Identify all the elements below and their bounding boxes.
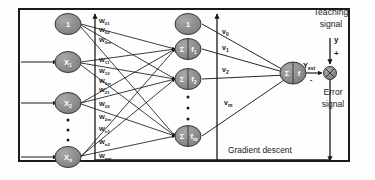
error-signal-label-line1: Error xyxy=(302,88,364,97)
weight-label-wn1: Wn1 xyxy=(99,126,110,135)
output-signal-label: Yest xyxy=(303,62,315,71)
weight-label-v2: v2 xyxy=(222,66,229,75)
teaching-signal-label-line2: signal xyxy=(296,20,366,29)
weight-label-vm: vm xyxy=(224,99,232,108)
minus-sign-label: - xyxy=(310,76,312,83)
input-node-xn: Xn xyxy=(55,147,81,168)
output-node-sigma: Σ xyxy=(285,69,290,78)
weight-label-w12: W12 xyxy=(99,68,110,77)
neural-network-diagram: 1 X1 X2 Xn 1 Σ f1 Σ xyxy=(0,0,375,180)
weight-sub-v0: 0 xyxy=(226,31,229,37)
weight-sub-w02: 02 xyxy=(105,30,110,35)
hidden-node-f2-sigma: Σ xyxy=(180,75,185,84)
hidden-node-f1: Σ f1 xyxy=(175,39,201,60)
weight-sub-w01: 01 xyxy=(105,21,110,26)
weight-label-wn2: Wn2 xyxy=(99,139,110,148)
weight-sub-w12: 12 xyxy=(105,71,110,76)
weight-sub-vm: m xyxy=(228,102,232,108)
weight-label-w02: W02 xyxy=(99,27,110,36)
weight-label-w11: W11 xyxy=(99,57,110,66)
summing-junction xyxy=(324,67,337,80)
weight-sub-w2m: 2m xyxy=(105,117,111,122)
input-layer-ellipsis xyxy=(67,119,70,142)
hidden-node-f1-sigma: Σ xyxy=(180,45,185,54)
weight-label-w2m: W2m xyxy=(99,114,111,123)
weight-label-v1: v1 xyxy=(222,44,229,53)
hidden-node-bias: 1 xyxy=(175,14,201,35)
input-node-x2: X2 xyxy=(55,93,81,114)
gradient-descent-label: Gradient descent xyxy=(228,146,292,154)
weight-sub-w0m: 0m xyxy=(105,40,111,45)
weight-label-w21: W21 xyxy=(99,87,110,96)
weight-sub-w1m: 1m xyxy=(105,81,111,86)
weight-sub-w11: 11 xyxy=(105,60,110,65)
weight-sub-w21: 21 xyxy=(105,90,110,95)
input-node-bias: 1 xyxy=(55,14,81,35)
hidden-node-fm-sigma: Σ xyxy=(180,132,185,141)
output-signal-sub: est xyxy=(308,65,315,71)
teaching-signal-label-line1: Teaching xyxy=(296,8,366,17)
weight-sub-wnm: nm xyxy=(105,156,112,161)
input-node-x1: X1 xyxy=(55,52,81,73)
hidden-node-f2: Σ f2 xyxy=(175,69,201,90)
error-signal-label-line2: signal xyxy=(302,100,364,109)
weight-sub-w22: 22 xyxy=(105,104,110,109)
hidden-to-output-connections xyxy=(202,24,287,136)
weight-label-w0m: W0m xyxy=(99,37,111,46)
weight-sub-wn2: n2 xyxy=(105,142,110,147)
hidden-node-fm: Σ fm xyxy=(175,126,201,147)
weight-sub-wn1: n1 xyxy=(105,129,110,134)
weight-sub-v1: 1 xyxy=(226,47,229,53)
plus-sign-label: + xyxy=(334,50,339,58)
weight-sub-v2: 2 xyxy=(226,69,229,75)
teaching-input-label: y xyxy=(334,36,338,44)
weight-label-v0: v0 xyxy=(222,28,229,37)
hidden-node-bias-label: 1 xyxy=(186,20,190,29)
weight-label-w22: W22 xyxy=(99,101,110,110)
input-node-bias-label: 1 xyxy=(66,20,70,29)
external-input-arrows xyxy=(21,62,57,157)
weight-label-wnm: Wnm xyxy=(99,153,111,162)
hidden-layer-ellipsis xyxy=(187,96,190,121)
